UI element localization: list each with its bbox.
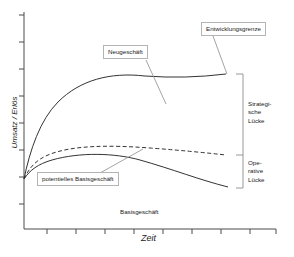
x-axis-label: Zeit: [141, 233, 156, 243]
label-strategische-luecke-line1: Strategi-: [248, 100, 271, 108]
leader-line-potentielles-basisgeschaeft: [100, 149, 143, 173]
curve-neugeschaeft: [24, 74, 226, 179]
label-operative-luecke-line2: rative: [248, 167, 265, 175]
label-operative-luecke-line3: Lücke: [248, 176, 265, 184]
label-strategische-luecke-line3: Lücke: [248, 117, 271, 125]
label-operative-luecke: Ope- rative Lücke: [248, 159, 265, 184]
label-operative-luecke-line1: Ope-: [248, 159, 265, 167]
label-strategische-luecke: Strategi- sche Lücke: [248, 100, 271, 125]
callout-neugeschaeft[interactable]: Neugeschäft: [103, 45, 148, 59]
gap-bracket: [236, 74, 243, 188]
strategic-gap-diagram: Entwicklungsgrenze Neugeschäft potentiel…: [0, 0, 294, 257]
label-basisgeschaeft: Basisgeschäft: [120, 208, 159, 215]
leader-line-neugeschaeft: [146, 60, 166, 104]
y-axis-ticks: [19, 15, 24, 204]
leader-line-entwicklungsgrenze: [213, 36, 227, 74]
callout-entwicklungsgrenze[interactable]: Entwicklungsgrenze: [201, 22, 266, 36]
label-strategische-luecke-line2: sche: [248, 108, 271, 116]
callout-potentielles-basisgeschaeft[interactable]: potentielles Basisgeschäft: [37, 172, 119, 186]
y-axis-label: Umsatz / Erlös: [10, 88, 19, 158]
chart-canvas: [0, 0, 294, 257]
x-axis-ticks: [47, 229, 276, 234]
